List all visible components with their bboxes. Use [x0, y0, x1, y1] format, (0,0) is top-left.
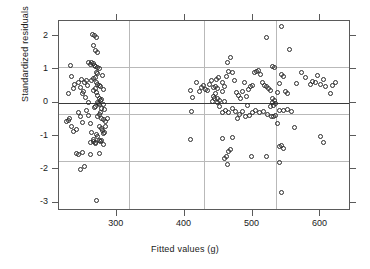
data-point	[294, 81, 299, 86]
data-point	[230, 135, 235, 140]
data-point	[330, 83, 335, 88]
data-point	[240, 109, 245, 114]
data-point	[258, 72, 263, 77]
data-point	[101, 87, 106, 92]
data-point	[217, 104, 222, 109]
data-point	[238, 96, 243, 101]
data-point	[292, 125, 297, 130]
y-tick-label-3: -1	[40, 131, 48, 140]
y-tick-1	[52, 68, 58, 69]
data-point	[279, 190, 284, 195]
vertical-gridline-0	[129, 21, 130, 209]
data-point	[242, 80, 247, 85]
data-point	[264, 154, 269, 159]
data-point	[277, 81, 282, 86]
data-point	[69, 74, 74, 79]
y-tick-right-2	[350, 102, 356, 103]
y-tick-right-3	[350, 135, 356, 136]
data-point	[315, 73, 320, 78]
data-point	[71, 86, 76, 91]
x-tick-top-0	[116, 14, 117, 20]
data-point	[97, 151, 102, 156]
data-point	[188, 137, 193, 142]
x-tick-label-2: 500	[244, 219, 259, 228]
data-point	[84, 108, 89, 113]
data-point	[102, 130, 107, 135]
x-tick-top-2	[252, 14, 253, 20]
data-point	[328, 91, 333, 96]
data-point	[86, 113, 91, 118]
data-point	[88, 152, 93, 157]
data-point	[250, 83, 255, 88]
data-point	[216, 75, 221, 80]
data-point	[88, 121, 93, 126]
data-point	[318, 134, 323, 139]
x-tick-label-1: 400	[176, 219, 191, 228]
data-point	[85, 83, 90, 88]
data-point	[228, 147, 233, 152]
vertical-gridline-1	[204, 21, 205, 209]
data-point	[287, 47, 292, 52]
data-point	[310, 79, 315, 84]
y-axis-title: Standardized residuals	[20, 0, 30, 134]
data-point	[188, 88, 193, 93]
residual-plot-figure: 210-1-2-3300400500600 Standardized resid…	[0, 0, 370, 269]
data-point	[222, 84, 227, 89]
data-point	[268, 88, 273, 93]
y-tick-5	[52, 202, 58, 203]
data-point	[101, 142, 106, 147]
data-point	[100, 73, 105, 78]
data-point	[275, 121, 280, 126]
data-point	[281, 74, 286, 79]
x-axis-title: Fitted values (g)	[0, 244, 370, 254]
data-point	[205, 88, 210, 93]
x-tick-2	[252, 210, 253, 216]
plot-area	[59, 21, 349, 209]
data-point	[232, 78, 237, 83]
y-tick-2	[52, 102, 58, 103]
data-point	[224, 74, 229, 79]
y-tick-label-0: 2	[43, 31, 48, 40]
data-point	[285, 91, 290, 96]
data-point	[244, 94, 249, 99]
data-point	[245, 103, 250, 108]
y-tick-label-4: -2	[40, 164, 48, 173]
data-point	[240, 89, 245, 94]
data-point	[220, 89, 225, 94]
data-point	[210, 99, 215, 104]
data-point	[93, 141, 98, 146]
data-point	[94, 198, 99, 203]
data-point	[82, 164, 87, 169]
data-point	[224, 154, 229, 159]
data-point	[79, 77, 84, 82]
data-point	[220, 136, 225, 141]
x-tick-3	[319, 210, 320, 216]
data-point	[275, 90, 280, 95]
y-tick-right-0	[350, 35, 356, 36]
data-point	[67, 116, 72, 121]
data-point	[88, 62, 93, 67]
data-point	[105, 116, 110, 121]
data-point	[279, 24, 284, 29]
data-point	[66, 91, 71, 96]
data-point	[74, 127, 79, 132]
data-point	[321, 77, 326, 82]
data-point	[321, 140, 326, 145]
y-tick-0	[52, 35, 58, 36]
data-point	[273, 113, 278, 118]
data-point	[264, 35, 269, 40]
data-point	[249, 154, 254, 159]
data-point	[80, 120, 85, 125]
y-tick-right-1	[350, 68, 356, 69]
data-point	[194, 80, 199, 85]
x-tick-0	[116, 210, 117, 216]
data-point	[220, 80, 225, 85]
y-tick-label-1: 1	[43, 64, 48, 73]
plot-frame	[58, 20, 350, 210]
y-tick-4	[52, 168, 58, 169]
y-tick-right-5	[350, 202, 356, 203]
data-point	[190, 95, 195, 100]
data-point	[277, 160, 282, 165]
data-point	[230, 70, 235, 75]
data-point	[228, 55, 233, 60]
